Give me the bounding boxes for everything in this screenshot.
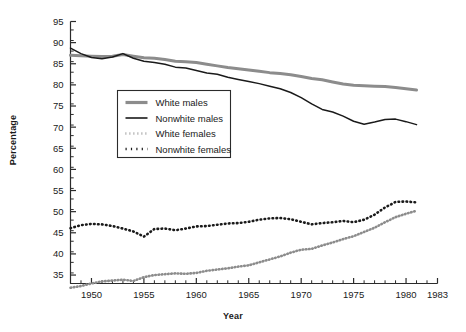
- y-tick-label: 50: [53, 206, 64, 217]
- x-tick-label: 1983: [427, 289, 448, 300]
- x-tick-label: 1980: [395, 289, 416, 300]
- chart-plot-area: 35404550556065707580859095 1950195519601…: [0, 0, 466, 332]
- y-tick-label: 45: [53, 227, 64, 238]
- y-tick-label: 85: [53, 58, 64, 69]
- chart-legend: White malesNonwhite malesWhite femalesNo…: [118, 91, 232, 158]
- y-tick-label: 60: [53, 164, 64, 175]
- x-tick-label: 1975: [343, 289, 364, 300]
- y-tick-label: 65: [53, 143, 64, 154]
- chart-figure: 35404550556065707580859095 1950195519601…: [0, 0, 466, 332]
- x-tick-label: 1955: [133, 289, 154, 300]
- y-tick-label: 70: [53, 122, 64, 133]
- legend-label: White males: [156, 97, 209, 108]
- x-axis-title: Year: [0, 311, 466, 321]
- x-tick-label: 1970: [291, 289, 312, 300]
- y-tick-label: 55: [53, 185, 64, 196]
- y-tick-label: 75: [53, 100, 64, 111]
- series-line: [71, 211, 417, 288]
- data-series-group: [71, 48, 417, 288]
- y-tick-label: 95: [53, 16, 64, 27]
- y-tick-label: 35: [53, 269, 64, 280]
- y-tick-label: 80: [53, 79, 64, 90]
- y-tick-label: 40: [53, 248, 64, 259]
- series-line: [71, 54, 417, 90]
- y-tick-label: 90: [53, 37, 64, 48]
- x-tick-label: 1960: [186, 289, 207, 300]
- x-tick-label: 1965: [238, 289, 259, 300]
- legend-label: Nonwhite females: [156, 144, 232, 155]
- legend-label: White females: [156, 128, 216, 139]
- x-tick-label: 1950: [81, 289, 102, 300]
- y-axis-title: Percentage: [8, 105, 18, 175]
- legend-label: Nonwhite males: [156, 113, 224, 124]
